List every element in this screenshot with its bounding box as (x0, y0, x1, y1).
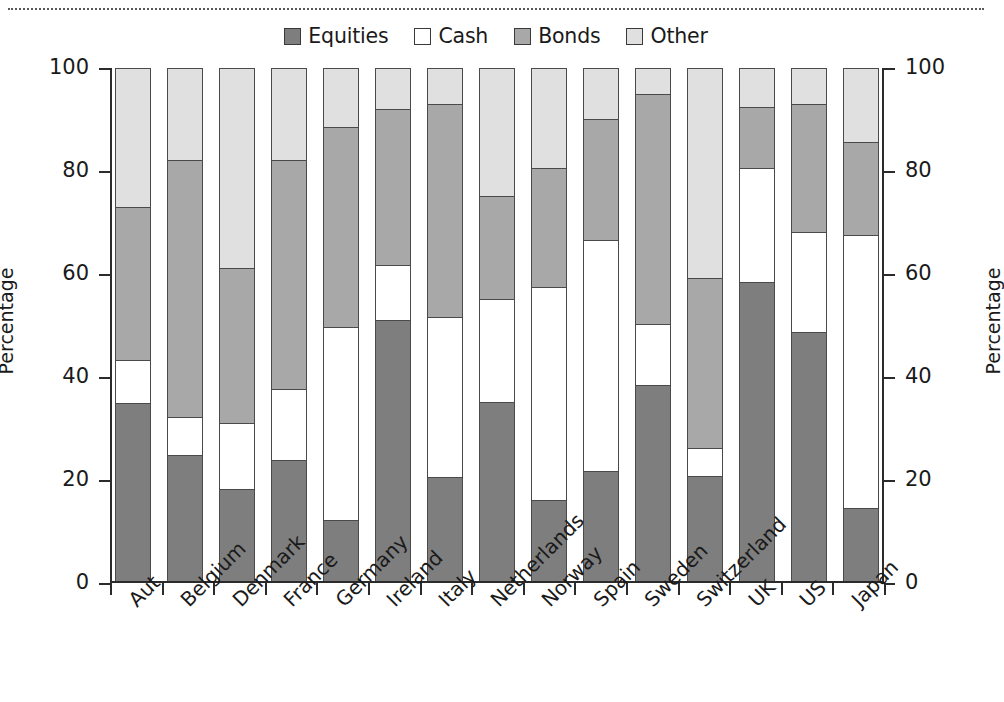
legend-item-equities[interactable]: Equities (284, 26, 388, 47)
legend-item-other[interactable]: Other (626, 26, 707, 47)
bar-segment-equities (167, 455, 203, 581)
y-tick-mark-right (884, 480, 895, 482)
legend-label: Other (650, 26, 707, 47)
y-axis-title-right: Percentage (982, 268, 1004, 375)
bar-segment-other (427, 68, 463, 104)
y-tick-label-left: 60 (62, 263, 89, 284)
bar-segment-equities (479, 402, 515, 581)
y-tick-label-right: 20 (905, 469, 932, 490)
bar-italy[interactable] (427, 68, 463, 581)
bar-segment-bonds (219, 268, 255, 422)
legend-item-bonds[interactable]: Bonds (514, 26, 600, 47)
bar-sweden[interactable] (635, 68, 671, 581)
bar-segment-other (739, 68, 775, 106)
legend-swatch-bonds (514, 28, 531, 45)
bar-segment-cash (219, 423, 255, 489)
bar-segment-bonds (115, 207, 151, 361)
bar-segment-equities (115, 403, 151, 581)
bar-segment-bonds (427, 104, 463, 317)
bar-norway[interactable] (531, 68, 567, 581)
y-tick-mark-right (884, 377, 895, 379)
bar-us[interactable] (791, 68, 827, 581)
y-tick-mark-right (884, 274, 895, 276)
y-tick-label-left: 0 (76, 572, 89, 593)
plot-region (110, 68, 884, 583)
bar-segment-cash (531, 287, 567, 500)
y-tick-mark-left (99, 583, 110, 585)
y-tick-label-right: 0 (905, 572, 918, 593)
bar-segment-cash (635, 324, 671, 386)
bar-segment-other (843, 68, 879, 142)
x-tick-mark (832, 583, 834, 595)
bar-segment-bonds (167, 160, 203, 417)
y-tick-label-right: 100 (905, 57, 945, 78)
legend-label: Bonds (538, 26, 600, 47)
x-tick-mark (110, 583, 112, 595)
bar-spain[interactable] (583, 68, 619, 581)
bar-segment-bonds (791, 104, 827, 232)
bar-france[interactable] (271, 68, 307, 581)
y-tick-label-right: 40 (905, 366, 932, 387)
legend-swatch-equities (284, 28, 301, 45)
bar-switzerland[interactable] (687, 68, 723, 581)
bar-netherlands[interactable] (479, 68, 515, 581)
legend-item-cash[interactable]: Cash (414, 26, 488, 47)
bar-segment-other (531, 68, 567, 168)
bar-segment-other (115, 68, 151, 207)
bar-segment-bonds (843, 142, 879, 234)
bar-segment-other (479, 68, 515, 196)
bar-belgium[interactable] (167, 68, 203, 581)
bar-segment-other (323, 68, 359, 127)
bar-germany[interactable] (323, 68, 359, 581)
legend-swatch-cash (414, 28, 431, 45)
bar-segment-equities (635, 385, 671, 581)
bar-segment-other (271, 68, 307, 160)
bar-segment-bonds (531, 168, 567, 287)
bar-group (112, 68, 882, 581)
bar-segment-cash (323, 327, 359, 520)
bar-segment-bonds (323, 127, 359, 327)
bar-segment-cash (271, 389, 307, 460)
bar-segment-other (219, 68, 255, 268)
bar-aut[interactable] (115, 68, 151, 581)
bar-segment-cash (115, 360, 151, 403)
bar-segment-cash (687, 448, 723, 476)
bar-segment-other (791, 68, 827, 104)
y-tick-label-right: 80 (905, 160, 932, 181)
y-tick-mark-left (99, 480, 110, 482)
bar-uk[interactable] (739, 68, 775, 581)
bar-segment-other (635, 68, 671, 94)
bar-segment-cash (843, 235, 879, 508)
top-divider (8, 8, 984, 10)
bar-segment-bonds (583, 119, 619, 240)
x-axis-labels: AutBelgiumDenmarkFranceGermanyIrelandIta… (110, 596, 884, 702)
bar-segment-other (583, 68, 619, 119)
y-tick-label-left: 100 (49, 57, 89, 78)
y-tick-label-left: 20 (62, 469, 89, 490)
chart-legend: EquitiesCashBondsOther (0, 26, 992, 47)
bar-denmark[interactable] (219, 68, 255, 581)
bar-segment-bonds (479, 196, 515, 299)
bar-segment-equities (791, 332, 827, 581)
y-tick-label-left: 40 (62, 366, 89, 387)
y-tick-mark-right (884, 171, 895, 173)
bar-segment-cash (739, 168, 775, 282)
bar-japan[interactable] (843, 68, 879, 581)
bar-segment-bonds (687, 278, 723, 448)
bar-segment-bonds (271, 160, 307, 388)
bar-segment-cash (375, 265, 411, 321)
bar-segment-cash (479, 299, 515, 402)
bar-segment-bonds (739, 107, 775, 169)
y-tick-mark-left (99, 377, 110, 379)
legend-label: Cash (438, 26, 488, 47)
chart-area: Percentage Percentage 002020404060608080… (0, 60, 992, 590)
y-tick-mark-left (99, 68, 110, 70)
y-axis-title-left: Percentage (0, 268, 17, 375)
legend-label: Equities (308, 26, 388, 47)
bar-ireland[interactable] (375, 68, 411, 581)
y-tick-label-right: 60 (905, 263, 932, 284)
bar-segment-bonds (375, 109, 411, 264)
y-tick-mark-left (99, 171, 110, 173)
bar-segment-bonds (635, 94, 671, 324)
y-tick-mark-left (99, 274, 110, 276)
